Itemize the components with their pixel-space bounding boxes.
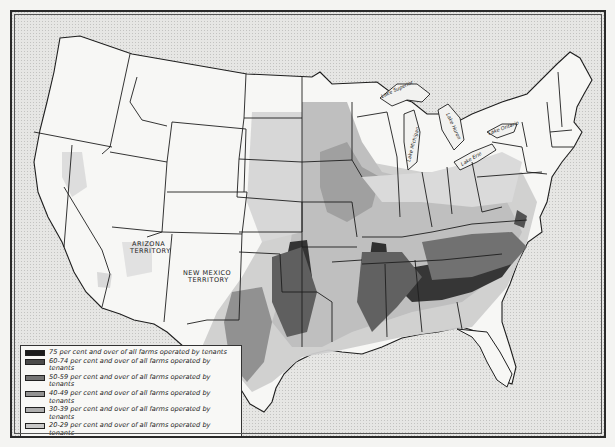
legend-item: 40-49 per cent and over of all farms ope… xyxy=(25,390,237,405)
legend-item: 30-39 per cent and over of all farms ope… xyxy=(25,406,237,421)
legend-item: 60-74 per cent and over of all farms ope… xyxy=(25,358,237,373)
legend-swatch-30-39 xyxy=(25,407,45,413)
legend-label: 75 per cent and over of all farms operat… xyxy=(49,349,227,357)
legend-label: 60-74 per cent and over of all farms ope… xyxy=(49,358,237,373)
legend-label: 30-39 per cent and over of all farms ope… xyxy=(49,406,237,421)
legend-item: 20-29 per cent and over of all farms ope… xyxy=(25,422,237,437)
legend: 75 per cent and over of all farms operat… xyxy=(20,345,242,437)
map-frame: ARIZONA TERRITORY NEW MEXICO TERRITORY L… xyxy=(10,10,606,438)
legend-label: 50-59 per cent and over of all farms ope… xyxy=(49,374,237,389)
label-new-mexico-line2: TERRITORY xyxy=(187,276,229,284)
legend-swatch-40-49 xyxy=(25,391,45,397)
legend-swatch-60-74 xyxy=(25,359,45,365)
label-arizona-line2: TERRITORY xyxy=(129,247,171,255)
legend-swatch-75-plus xyxy=(25,350,45,356)
legend-label: 20-29 per cent and over of all farms ope… xyxy=(49,422,237,437)
legend-item: 75 per cent and over of all farms operat… xyxy=(25,349,237,357)
legend-swatch-50-59 xyxy=(25,375,45,381)
legend-item: 50-59 per cent and over of all farms ope… xyxy=(25,374,237,389)
legend-swatch-20-29 xyxy=(25,423,45,429)
legend-label: 40-49 per cent and over of all farms ope… xyxy=(49,390,237,405)
